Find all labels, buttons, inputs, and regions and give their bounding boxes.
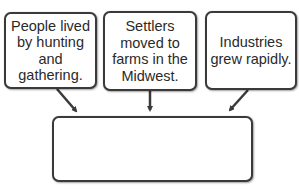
cause-box-text: People lived by hunting and gathering. [11,18,90,84]
cause-box-industries: Industries grew rapidly. [205,11,297,90]
cause-box-text: Industries grew rapidly. [210,34,291,67]
answer-box[interactable] [52,116,253,182]
cause-box-text: Settlers moved to farms in the Midwest. [112,18,188,84]
cause-box-settlers-midwest: Settlers moved to farms in the Midwest. [103,11,197,91]
cause-box-hunting-gathering: People lived by hunting and gathering. [4,12,97,89]
arrow-left [57,89,76,111]
arrow-right [230,90,248,110]
